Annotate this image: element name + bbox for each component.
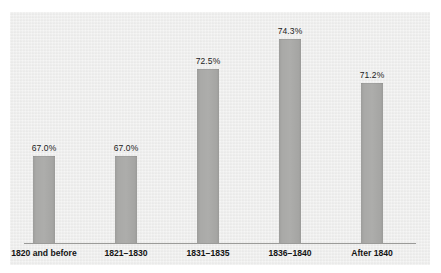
bar-value-label: 67.0% bbox=[32, 143, 57, 153]
bar-value-label: 74.3% bbox=[278, 26, 303, 36]
bar-rect bbox=[361, 83, 383, 243]
bar-group: 71.2% bbox=[330, 33, 414, 243]
bar-rect bbox=[279, 39, 301, 243]
bar-value-label: 71.2% bbox=[360, 70, 385, 80]
bar-value-label: 67.0% bbox=[114, 143, 139, 153]
bar-group: 67.0% bbox=[10, 33, 86, 243]
bar-group: 72.5% bbox=[166, 33, 250, 243]
x-axis-line bbox=[24, 243, 416, 244]
chart-panel: 67.0% 67.0% 72.5% 74.3% 71.2% bbox=[10, 12, 430, 265]
bar-group: 74.3% bbox=[248, 33, 332, 243]
bar-chart-figure: 67.0% 67.0% 72.5% 74.3% 71.2% bbox=[0, 0, 441, 273]
bar-rect bbox=[33, 156, 55, 243]
x-axis-category-label: After 1840 bbox=[317, 248, 427, 258]
bar-rect bbox=[115, 156, 137, 243]
bar-rect bbox=[197, 69, 219, 243]
plot-area: 67.0% 67.0% 72.5% 74.3% 71.2% bbox=[10, 12, 430, 265]
bar-group: 67.0% bbox=[84, 33, 168, 243]
bar-value-label: 72.5% bbox=[196, 56, 221, 66]
